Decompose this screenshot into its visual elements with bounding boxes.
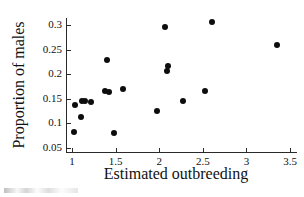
y-axis-tick (67, 148, 71, 149)
caption-fragment (4, 188, 78, 193)
y-axis-tick-label: 0.3 (26, 19, 62, 30)
data-point (78, 114, 84, 120)
x-axis-tick (290, 148, 291, 152)
x-axis-tick (159, 148, 160, 152)
data-point (274, 42, 280, 48)
x-axis-tick-label: 2.5 (188, 156, 218, 167)
x-axis-tick-label: 2 (144, 156, 174, 167)
y-axis-tick-label: 0.2 (26, 68, 62, 79)
data-point (104, 57, 110, 63)
data-point (82, 98, 88, 104)
data-point (111, 130, 117, 136)
data-point (162, 24, 168, 30)
x-axis-spine (66, 152, 297, 153)
x-axis-tick-label: 1.5 (101, 156, 131, 167)
x-axis-tick (203, 148, 204, 152)
x-axis-tick-label: 3 (231, 156, 261, 167)
y-axis-tick-label: 0.05 (26, 142, 62, 153)
y-axis-tick (67, 50, 71, 51)
x-axis-title: Estimated outbreeding (56, 165, 296, 183)
y-axis-tick (67, 25, 71, 26)
data-point (120, 86, 126, 92)
data-point (106, 89, 112, 95)
y-axis-tick (67, 99, 71, 100)
data-point (202, 88, 208, 94)
x-axis-tick-label: 3.5 (275, 156, 304, 167)
data-point (154, 108, 160, 114)
y-axis-tick-label: 0.15 (26, 93, 62, 104)
data-point (165, 63, 171, 69)
y-axis-tick (67, 74, 71, 75)
data-point (71, 129, 77, 135)
x-axis-tick (246, 148, 247, 152)
y-axis-spine (66, 18, 67, 152)
x-axis-tick-label: 1 (57, 156, 87, 167)
y-axis-tick (67, 123, 71, 124)
y-axis-tick-label: 0.25 (26, 44, 62, 55)
data-point (72, 102, 78, 108)
data-point (88, 99, 94, 105)
data-point (180, 98, 186, 104)
x-axis-tick (72, 148, 73, 152)
y-axis-tick-label: 0.1 (26, 117, 62, 128)
data-point (209, 19, 215, 25)
scatter-plot-figure: Proportion of males Estimated outbreedin… (0, 0, 304, 197)
x-axis-tick (116, 148, 117, 152)
data-point (164, 68, 170, 74)
y-axis-title: Proportion of males (10, 10, 28, 160)
